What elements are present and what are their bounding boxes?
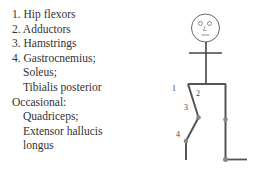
ankle-joint-left [184, 139, 189, 144]
left-eye-icon [199, 22, 203, 26]
nose-icon [204, 26, 207, 31]
label-3: 3 [184, 103, 188, 112]
knee-joint-right [223, 117, 228, 122]
label-1: 1 [172, 84, 176, 93]
ankle-joint-right [223, 157, 228, 162]
head [192, 14, 220, 42]
stick-figure-diagram: 1 2 3 4 [0, 0, 255, 173]
label-4: 4 [176, 130, 180, 139]
straight-leg [223, 84, 247, 162]
knee-joint-left [196, 115, 201, 120]
right-eye-icon [208, 22, 212, 26]
label-2: 2 [196, 89, 200, 98]
